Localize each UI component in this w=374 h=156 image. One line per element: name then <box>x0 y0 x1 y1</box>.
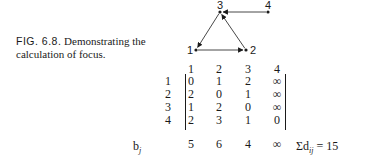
matrix-cell: 1 <box>238 113 258 127</box>
matrix-cell: 1 <box>209 74 229 88</box>
matrix-cell: 0 <box>209 87 229 101</box>
matrix-left-bracket <box>185 74 186 130</box>
distance-matrix: 12341234012∞201∞120∞2310564∞ <box>0 0 374 156</box>
matrix-cell: 2 <box>181 87 201 101</box>
row-header-4: 4 <box>158 113 178 127</box>
matrix-cell: 0 <box>267 113 287 127</box>
matrix-cell: 3 <box>209 113 229 127</box>
column-sum: 6 <box>209 137 229 151</box>
matrix-cell: 1 <box>238 87 258 101</box>
total-distance-sum: Σdij = 15 <box>296 139 338 155</box>
matrix-cell: 2 <box>181 113 201 127</box>
column-sum: 5 <box>181 137 201 151</box>
matrix-cell: 2 <box>238 74 258 88</box>
row-header-3: 3 <box>158 100 178 114</box>
matrix-cell: 0 <box>238 100 258 114</box>
column-sum: 4 <box>238 137 258 151</box>
matrix-cell: ∞ <box>267 74 287 88</box>
matrix-cell: ∞ <box>267 100 287 114</box>
matrix-cell: ∞ <box>267 87 287 101</box>
column-sum: ∞ <box>267 137 287 151</box>
matrix-cell: 2 <box>209 100 229 114</box>
matrix-cell: 1 <box>181 100 201 114</box>
matrix-right-bracket <box>285 74 286 130</box>
matrix-cell: 0 <box>181 74 201 88</box>
column-sums-label: bj <box>133 139 141 155</box>
row-header-2: 2 <box>158 87 178 101</box>
row-header-1: 1 <box>158 74 178 88</box>
